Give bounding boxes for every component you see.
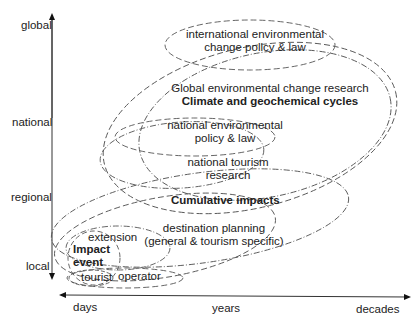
scale-diagram: global national regional local days year… bbox=[0, 0, 418, 320]
y-label-national: national bbox=[12, 116, 52, 128]
x-label-decades: decades bbox=[356, 303, 399, 315]
label-impact-event: Impact event bbox=[73, 243, 110, 269]
label-operator: operator bbox=[118, 270, 161, 283]
label-global-research: Global environmental change research bbox=[170, 82, 370, 95]
label-climate: Climate and geochemical cycles bbox=[170, 95, 370, 108]
axis-arrow-down-icon bbox=[49, 273, 55, 280]
y-label-local: local bbox=[26, 260, 50, 272]
x-label-days: days bbox=[73, 301, 97, 313]
label-national-tourism: national tourism research bbox=[178, 156, 278, 182]
axis-arrow-right-icon bbox=[404, 294, 411, 300]
axis-arrow-left-icon bbox=[59, 292, 66, 298]
temporal-axis bbox=[62, 295, 408, 297]
label-tourist: tourist bbox=[81, 271, 112, 284]
label-intl-policy: international environmental change polic… bbox=[185, 28, 325, 54]
y-label-regional: regional bbox=[11, 191, 52, 203]
y-label-global: global bbox=[21, 19, 52, 31]
label-national-policy: national environmental policy & law bbox=[160, 119, 290, 145]
label-cumulative: Cumulative impacts bbox=[171, 194, 280, 207]
label-destination: destination planning (general & tourism … bbox=[144, 222, 284, 248]
x-label-years: years bbox=[212, 302, 240, 314]
